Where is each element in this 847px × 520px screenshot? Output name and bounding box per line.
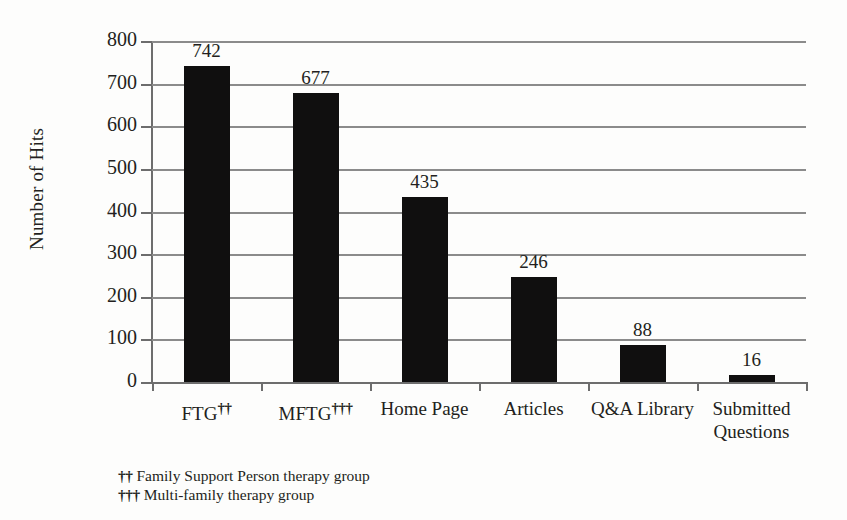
category-label-line: Submitted bbox=[685, 397, 818, 420]
y-axis-tick-label: 0 bbox=[67, 369, 137, 392]
y-axis-title: Number of Hits bbox=[26, 109, 48, 269]
footnote-text: Family Support Person therapy group bbox=[137, 467, 370, 484]
y-axis-tick bbox=[141, 297, 152, 299]
bar-value-label: 88 bbox=[633, 319, 652, 341]
bar: 677 bbox=[293, 93, 339, 382]
gridline bbox=[152, 41, 806, 43]
y-axis-tick-label: 100 bbox=[67, 326, 137, 349]
footnote-line: ††Family Support Person therapy group bbox=[118, 466, 370, 485]
y-axis-tick-label: 200 bbox=[67, 284, 137, 307]
x-axis-tick bbox=[370, 382, 372, 391]
footnote-line: †††Multi-family therapy group bbox=[118, 485, 370, 504]
x-axis-tick bbox=[261, 382, 263, 391]
y-axis-tick-label: 300 bbox=[67, 241, 137, 264]
gridline bbox=[152, 169, 806, 171]
gridline bbox=[152, 126, 806, 128]
bar: 88 bbox=[620, 345, 666, 383]
footnotes-block: ††Family Support Person therapy group†††… bbox=[118, 466, 370, 504]
bar-value-label: 246 bbox=[519, 251, 548, 273]
footnote-text: Multi-family therapy group bbox=[144, 486, 314, 503]
y-axis-tick-label: 800 bbox=[67, 28, 137, 51]
x-axis-tick bbox=[479, 382, 481, 391]
footnote-dagger-icon: ††† bbox=[118, 486, 140, 503]
y-axis-tick bbox=[141, 254, 152, 256]
y-axis-tick bbox=[141, 41, 152, 43]
y-axis-tick bbox=[141, 84, 152, 86]
gridline bbox=[152, 254, 806, 256]
y-axis-tick-label: 400 bbox=[67, 199, 137, 222]
x-axis-tick bbox=[588, 382, 590, 391]
y-axis-tick bbox=[141, 212, 152, 214]
bar-chart-figure: Number of Hits 8007006005004003002001000… bbox=[0, 0, 847, 520]
y-axis-tick-label: 600 bbox=[67, 113, 137, 136]
y-axis-tick-label: 500 bbox=[67, 156, 137, 179]
y-axis-tick bbox=[141, 169, 152, 171]
y-axis-tick bbox=[141, 339, 152, 341]
bar-value-label: 742 bbox=[192, 40, 221, 62]
category-label-line: Questions bbox=[685, 420, 818, 443]
bar-value-label: 16 bbox=[742, 349, 761, 371]
y-axis-tick bbox=[141, 382, 152, 384]
gridline bbox=[152, 212, 806, 214]
bar-value-label: 677 bbox=[301, 67, 330, 89]
bar: 246 bbox=[511, 277, 557, 382]
gridline bbox=[152, 297, 806, 299]
x-axis-tick bbox=[152, 382, 154, 391]
gridline bbox=[152, 339, 806, 341]
bar: 435 bbox=[402, 197, 448, 382]
plot-area: 8007006005004003002001000 74267743524688… bbox=[152, 41, 806, 382]
y-axis-tick-label: 700 bbox=[67, 71, 137, 94]
x-axis-tick bbox=[806, 382, 808, 391]
dagger-marker-icon: †† bbox=[217, 400, 231, 416]
x-axis-category-label: SubmittedQuestions bbox=[685, 397, 818, 443]
bar: 16 bbox=[729, 375, 775, 382]
dagger-marker-icon: ††† bbox=[331, 400, 352, 416]
bar-value-label: 435 bbox=[410, 171, 439, 193]
bar: 742 bbox=[184, 66, 230, 382]
x-axis-tick bbox=[697, 382, 699, 391]
gridline bbox=[152, 84, 806, 86]
footnote-dagger-icon: †† bbox=[118, 467, 133, 484]
y-axis-tick bbox=[141, 126, 152, 128]
